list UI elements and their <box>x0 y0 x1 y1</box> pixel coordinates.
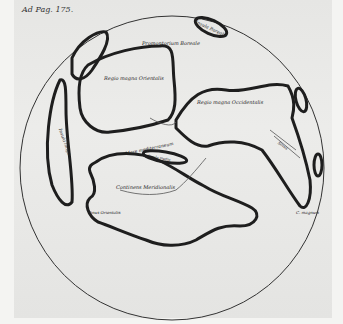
map-drawing: Insula Borealis Promontorium Boreale Reg… <box>0 0 343 324</box>
label-c-magnum: C. magnum <box>296 210 319 215</box>
island-east-small <box>293 87 309 113</box>
region-orientalis <box>79 46 175 132</box>
label-regio-occidentalis: Regio magna Occidentalis <box>196 99 264 106</box>
label-regio-orientalis: Regio magna Orientalis <box>103 75 164 82</box>
label-sinus-orientalis: Sinus Orientalis <box>88 210 121 215</box>
island-east-rim <box>314 154 322 176</box>
label-insula-longa: Insula longa <box>57 127 72 156</box>
island-northwest <box>72 32 108 79</box>
label-continens: Continens Meridionalis <box>116 184 175 190</box>
label-promontorium: Promontorium Boreale <box>141 40 200 46</box>
continent-meridionalis <box>87 154 257 246</box>
label-sinus-occidentalis: Sinus <box>277 140 289 151</box>
